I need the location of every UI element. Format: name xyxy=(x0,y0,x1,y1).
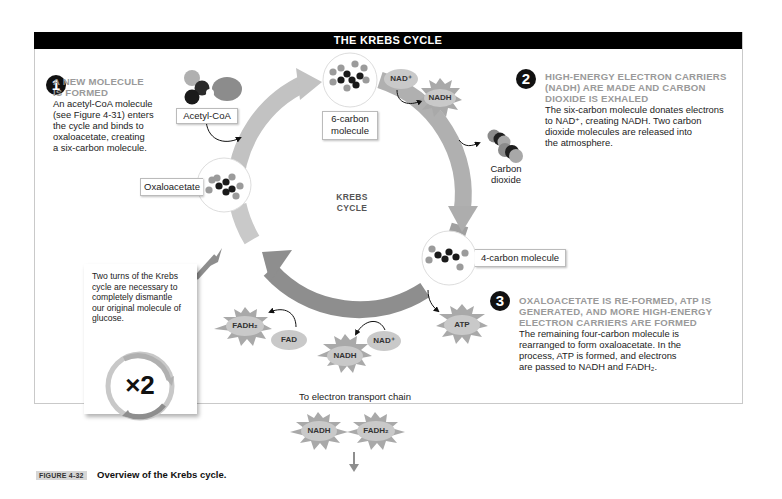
two-turns-note-box: Two turns of the Krebs cycle are necessa… xyxy=(84,264,197,414)
step-1-body-line: a six-carbon molecule. xyxy=(53,142,154,153)
step-3-body-line: process, ATP is formed, and electrons xyxy=(519,350,712,361)
four-carbon-label: 4-carbon molecule xyxy=(475,249,566,267)
multiplier-label: ×2 xyxy=(104,370,176,401)
step-3-heading-line3: ELECTRON CARRIERS ARE FORMED xyxy=(519,317,712,328)
two-turns-note-text: Two turns of the Krebs cycle are necessa… xyxy=(92,271,181,324)
six-carbon-label: 6-carbon molecule xyxy=(322,111,378,140)
nadh-top-label: NADH xyxy=(424,93,456,102)
electron-transport-label: To electron transport chain xyxy=(278,391,432,402)
atp-label: ATP xyxy=(446,320,478,329)
step-1-body-line: oxaloacetate, creating xyxy=(53,131,154,142)
center-label-line1: KREBS xyxy=(322,192,382,203)
step-3-heading-line2: GENERATED, AND MORE HIGH-ENERGY xyxy=(519,306,712,317)
step-2-heading-line1: HIGH-ENERGY ELECTRON CARRIERS xyxy=(545,71,727,82)
nad-plus-top-label: NAD⁺ xyxy=(384,74,418,83)
acetyl-coa-label: Acetyl-CoA xyxy=(176,108,238,124)
step-1-heading-line2: IS FORMED xyxy=(53,87,154,98)
step-3-body-line: are passed to NADH and FADH₂. xyxy=(519,361,712,372)
nadh-bottom-label: NADH xyxy=(328,351,362,360)
step-2-text-block: HIGH-ENERGY ELECTRON CARRIERS (NADH) ARE… xyxy=(545,71,727,148)
step-1-heading-line1: A NEW MOLECULE xyxy=(53,76,154,87)
carbon-dioxide-molecules xyxy=(488,130,524,164)
step-1-body-line: An acetyl-CoA molecule xyxy=(53,98,154,109)
step-3-body-line: rearranged to form oxaloacetate. In the xyxy=(519,339,712,350)
step-3-heading-line1: OXALOACETATE IS RE-FORMED, ATP IS xyxy=(519,295,712,306)
oxaloacetate-label: Oxaloacetate xyxy=(140,178,203,196)
figure-caption-text: Overview of the Krebs cycle. xyxy=(97,469,226,480)
figure-caption: FIGURE 4-32 Overview of the Krebs cycle. xyxy=(36,464,226,482)
carbon-dioxide-label-line2: dioxide xyxy=(484,174,528,185)
etc-nadh-label: NADH xyxy=(300,426,338,435)
step-3-number: 3 xyxy=(490,291,510,311)
fad-label: FAD xyxy=(272,335,306,344)
step-2-body-line: dioxide molecules are released into xyxy=(545,126,727,137)
nad-plus-bottom-label: NAD⁺ xyxy=(367,336,401,345)
figure-number-tag: FIGURE 4-32 xyxy=(36,471,87,480)
step-1-text-block: A NEW MOLECULE IS FORMED An acetyl-CoA m… xyxy=(53,76,154,153)
six-carbon-label-line1: 6-carbon xyxy=(323,113,377,125)
center-label-line2: CYCLE xyxy=(322,203,382,214)
six-carbon-label-line2: molecule xyxy=(323,125,377,137)
etc-fadh2-label: FADH₂ xyxy=(356,426,396,435)
step-2-heading-line3: DIOXIDE IS EXHALED xyxy=(545,93,727,104)
step-2-heading-line2: (NADH) ARE MADE AND CARBON xyxy=(545,82,727,93)
acetyl-coa-molecule xyxy=(184,70,242,105)
step-2-body-line: to NAD⁺, creating NADH. Two carbon xyxy=(545,115,727,126)
step-2-body-line: the atmosphere. xyxy=(545,137,727,148)
step-2-body-line: The six-carbon molecule donates electron… xyxy=(545,104,727,115)
ring-arrowhead-top xyxy=(296,68,322,100)
carbon-dioxide-label: Carbon dioxide xyxy=(484,163,528,185)
krebs-cycle-center-label: KREBS CYCLE xyxy=(322,192,382,214)
step-1-body-line: the cycle and binds to xyxy=(53,120,154,131)
step-2-number: 2 xyxy=(516,69,536,89)
fadh2-label: FADH₂ xyxy=(226,321,264,330)
step-1-body-line: (see Figure 4-31) enters xyxy=(53,109,154,120)
carbon-dioxide-label-line1: Carbon xyxy=(484,163,528,174)
step-3-text-block: OXALOACETATE IS RE-FORMED, ATP IS GENERA… xyxy=(519,295,712,372)
step-3-body-line: The remaining four-carbon molecule is xyxy=(519,328,712,339)
